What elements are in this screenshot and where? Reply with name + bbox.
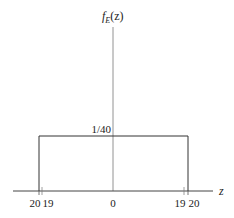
y-axis-label: fE(z) <box>102 9 124 25</box>
density-curve <box>39 136 188 191</box>
tick-label-pos20: 20 <box>189 197 201 209</box>
x-axis-label: z <box>218 184 224 198</box>
tick-label-neg19: 19 <box>43 197 55 209</box>
tick-label-zero: 0 <box>110 197 116 209</box>
level-label: 1/40 <box>91 123 111 135</box>
chart-canvas: fE(z) z 1/40 20 19 0 19 20 <box>0 0 234 218</box>
tick-label-pos19: 19 <box>175 197 187 209</box>
tick-label-neg20: 20 <box>30 197 42 209</box>
